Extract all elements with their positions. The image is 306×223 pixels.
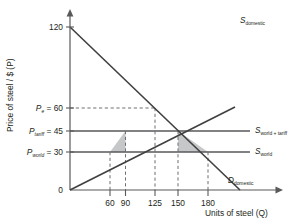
- x-tick-label-125: 125: [148, 198, 162, 208]
- x-tick-label-180: 180: [201, 198, 215, 208]
- d-domestic-subscript: domestic: [234, 181, 254, 186]
- deadweight-loss-left: [110, 131, 126, 152]
- price-label-ptariff: Ptariff = 45: [29, 126, 63, 137]
- ptariff-value: = 45: [44, 126, 63, 136]
- pe-value: = 60: [44, 103, 63, 113]
- x-tick-label-150: 150: [171, 198, 185, 208]
- supply-demand-tariff-chart: Price of steel / $ (P) Units of steel (Q…: [0, 0, 306, 223]
- s-domestic-subscript: domestic: [245, 21, 265, 26]
- price-label-pe: Pe = 60: [36, 103, 64, 114]
- s-domestic-curve: [70, 107, 235, 190]
- y-axis-arrow: [67, 9, 74, 17]
- x-tick-label-60: 60: [105, 198, 115, 208]
- curve-label-s-domestic: Sdomestic: [240, 16, 266, 26]
- x-tick-label-90: 90: [121, 198, 131, 208]
- y-tick-label-0: 0: [58, 185, 63, 195]
- s-world-subscript: world: [260, 152, 272, 157]
- x-axis-arrow: [276, 187, 284, 194]
- pworld-value: = 30: [44, 147, 63, 157]
- y-tick-label-120: 120: [49, 22, 63, 32]
- curve-label-s-world: Sworld: [255, 147, 272, 157]
- x-axis-title: Units of steel (Q): [205, 208, 268, 218]
- price-label-pworld: Pworld = 30: [27, 147, 63, 158]
- s-world-tariff-subscript: world + tariff: [260, 131, 287, 136]
- curve-label-d-domestic: Ddomestic: [228, 176, 254, 186]
- pworld-subscript: world: [32, 153, 44, 158]
- y-axis-title: Price of steel / $ (P): [5, 58, 15, 132]
- curve-label-s-world-tariff: Sworld + tariff: [255, 126, 288, 136]
